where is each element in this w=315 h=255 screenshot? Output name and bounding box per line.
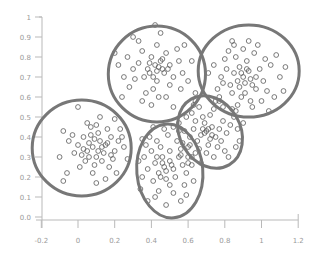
data-point bbox=[140, 49, 145, 54]
x-tick-label: 0.2 bbox=[109, 237, 120, 245]
data-point bbox=[109, 135, 114, 140]
data-point bbox=[131, 35, 136, 40]
data-point bbox=[149, 103, 154, 108]
data-point bbox=[281, 89, 286, 94]
data-point bbox=[112, 117, 117, 122]
data-point bbox=[254, 87, 259, 92]
data-point bbox=[94, 181, 99, 186]
data-point bbox=[155, 79, 160, 84]
data-point bbox=[133, 77, 138, 82]
data-point bbox=[144, 91, 149, 96]
y-tick-label: 0.6 bbox=[20, 94, 32, 102]
data-point bbox=[160, 155, 165, 160]
data-point bbox=[155, 155, 160, 160]
data-point bbox=[235, 79, 240, 84]
data-point bbox=[88, 125, 93, 130]
x-tick-label: -0.2 bbox=[34, 237, 48, 245]
data-point bbox=[94, 123, 99, 128]
data-point bbox=[173, 175, 178, 180]
data-point bbox=[87, 155, 92, 160]
data-point bbox=[182, 183, 187, 188]
data-point bbox=[94, 155, 99, 160]
data-point bbox=[171, 105, 176, 110]
data-point bbox=[178, 87, 183, 92]
data-point bbox=[259, 99, 264, 104]
x-tick-label: 1 bbox=[259, 237, 263, 245]
data-point bbox=[118, 127, 123, 132]
data-point bbox=[169, 163, 174, 168]
data-point bbox=[243, 91, 248, 96]
data-point bbox=[233, 55, 238, 60]
data-point bbox=[239, 71, 244, 76]
data-point bbox=[167, 83, 172, 88]
data-point bbox=[92, 137, 97, 142]
x-tick-label: 1.2 bbox=[293, 237, 304, 245]
data-point bbox=[268, 63, 273, 68]
data-point bbox=[101, 151, 106, 156]
data-point bbox=[116, 63, 121, 68]
data-point bbox=[283, 65, 288, 70]
data-point bbox=[191, 127, 196, 132]
data-point bbox=[228, 123, 233, 128]
data-point bbox=[61, 129, 66, 134]
data-point bbox=[224, 67, 229, 72]
y-tick-label: 0.3 bbox=[20, 154, 31, 162]
data-point bbox=[217, 127, 222, 132]
data-point bbox=[127, 85, 132, 90]
data-point bbox=[219, 75, 224, 80]
y-tick-label: 0.8 bbox=[20, 54, 31, 62]
data-point bbox=[81, 135, 86, 140]
data-point bbox=[193, 91, 198, 96]
data-point bbox=[153, 161, 158, 166]
data-point bbox=[164, 95, 169, 100]
data-point bbox=[136, 39, 141, 44]
data-point bbox=[166, 133, 171, 138]
data-point bbox=[164, 177, 169, 182]
data-point bbox=[191, 179, 196, 184]
data-point bbox=[255, 43, 260, 48]
data-point bbox=[243, 81, 248, 86]
data-point bbox=[140, 175, 145, 180]
data-point bbox=[184, 193, 189, 198]
data-point bbox=[241, 47, 246, 52]
data-point bbox=[206, 143, 211, 148]
data-point bbox=[142, 75, 147, 80]
data-point bbox=[265, 89, 270, 94]
data-point bbox=[160, 161, 165, 166]
data-point bbox=[79, 153, 84, 158]
data-point bbox=[193, 119, 198, 124]
data-point bbox=[147, 71, 152, 76]
data-point bbox=[233, 145, 238, 150]
data-point bbox=[250, 83, 255, 88]
data-point bbox=[72, 151, 77, 156]
data-point bbox=[76, 143, 81, 148]
data-point bbox=[226, 49, 231, 54]
cluster-top-right-points bbox=[206, 39, 288, 114]
data-point bbox=[100, 159, 105, 164]
y-tick-label: 0.9 bbox=[20, 34, 31, 42]
data-point bbox=[88, 133, 93, 138]
x-tick-label: 0 bbox=[76, 237, 80, 245]
x-tick-label: 0.4 bbox=[146, 237, 158, 245]
y-tick-label: 0.5 bbox=[20, 114, 31, 122]
data-point bbox=[248, 99, 253, 104]
cluster-top-ellipse bbox=[108, 26, 205, 122]
data-point bbox=[235, 127, 240, 132]
data-point bbox=[215, 145, 220, 150]
data-point bbox=[83, 159, 88, 164]
data-point bbox=[239, 95, 244, 100]
data-point bbox=[182, 43, 187, 48]
data-point bbox=[232, 71, 237, 76]
data-point bbox=[131, 67, 136, 72]
data-point bbox=[180, 163, 185, 168]
data-point bbox=[81, 147, 86, 152]
data-point bbox=[122, 75, 127, 80]
data-point bbox=[107, 165, 112, 170]
data-point bbox=[219, 139, 224, 144]
data-point bbox=[145, 167, 150, 172]
data-point bbox=[151, 87, 156, 92]
data-point bbox=[200, 115, 205, 120]
x-tick-labels: -0.200.20.40.60.811.2 bbox=[34, 237, 303, 245]
data-point bbox=[158, 145, 163, 150]
y-tick-label: 0.4 bbox=[20, 134, 32, 142]
